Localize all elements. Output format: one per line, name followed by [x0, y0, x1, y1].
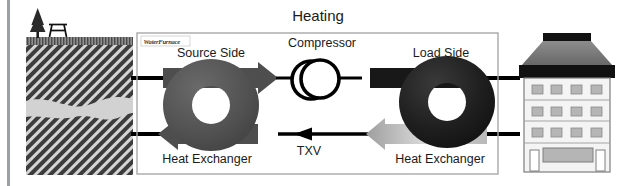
compressor-label: Compressor: [288, 36, 356, 50]
building-roof-cap: [543, 33, 591, 41]
building-icon: [519, 33, 615, 172]
entrance-door-right: [596, 150, 605, 171]
turf-band: [26, 37, 133, 45]
txv-label: TXV: [297, 144, 322, 158]
left-margin-rule: [7, 0, 10, 186]
entrance-awning: [543, 148, 593, 162]
waterfurnace-logo-text: WaterFurnace: [144, 38, 181, 45]
heat-pump-heating-schematic: WaterFurnace Source Side Heat Exchanger …: [0, 0, 629, 186]
load-coil-icon: [396, 54, 500, 154]
heat-exchanger-right-label: Heat Exchanger: [395, 152, 485, 166]
waterfurnace-logo: WaterFurnace: [141, 36, 190, 46]
building-roof-band: [519, 65, 615, 78]
page-title: Heating: [292, 7, 344, 24]
source-coil-icon: [160, 56, 264, 156]
heat-exchanger-left-label: Heat Exchanger: [162, 152, 252, 166]
entrance-door-left: [530, 150, 539, 171]
heating-diagram-canvas: WaterFurnace Source Side Heat Exchanger …: [0, 0, 629, 186]
source-side-label: Source Side: [177, 46, 245, 60]
load-side-label: Load Side: [413, 46, 469, 60]
